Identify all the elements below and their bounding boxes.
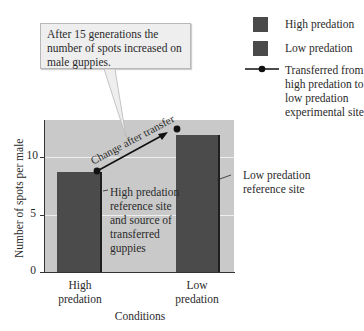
marker-transferred bbox=[174, 126, 181, 133]
arrowhead-icon bbox=[158, 132, 168, 140]
annotation-high-line-2: reference site bbox=[110, 199, 179, 213]
callout-pointer bbox=[104, 69, 126, 137]
annotation-high-line-3: and source of bbox=[110, 213, 179, 227]
annotation-high-site: High predation reference site and source… bbox=[110, 185, 179, 255]
annotation-low-line-2: reference site bbox=[243, 182, 310, 196]
marker-high-predation bbox=[94, 168, 101, 175]
annotation-high-line-4: transferred bbox=[110, 227, 179, 241]
annotation-high-line-1: High predation bbox=[110, 185, 179, 199]
annotation-low-site: Low predation reference site bbox=[243, 168, 310, 196]
annotation-low-line-1: Low predation bbox=[243, 168, 310, 182]
leader-high-site bbox=[103, 190, 108, 191]
annotation-high-line-5: guppies bbox=[110, 241, 179, 255]
leader-low-site bbox=[217, 175, 231, 180]
